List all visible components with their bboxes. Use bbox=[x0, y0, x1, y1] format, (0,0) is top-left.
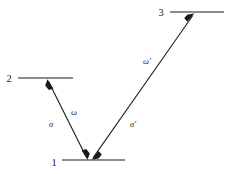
energy-level-diagram: 1 2 3 ω σ ω′ σ′ bbox=[0, 0, 232, 174]
sigma-label: σ bbox=[49, 119, 54, 129]
arrowhead-down-level-1 bbox=[82, 149, 90, 160]
level-label-1: 1 bbox=[51, 157, 56, 168]
diagram-canvas: 1 2 3 ω σ ω′ σ′ bbox=[0, 0, 232, 174]
level-label-3: 3 bbox=[158, 7, 163, 18]
sigma-prime-label: σ′ bbox=[130, 119, 136, 129]
arrowhead-up-level-2 bbox=[45, 79, 53, 90]
transition-arrow-1-3 bbox=[93, 16, 192, 158]
transition-arrow-1-2 bbox=[49, 82, 87, 158]
level-label-2: 2 bbox=[6, 73, 11, 84]
omega-label: ω bbox=[71, 107, 77, 117]
omega-prime-label: ω′ bbox=[143, 56, 151, 66]
